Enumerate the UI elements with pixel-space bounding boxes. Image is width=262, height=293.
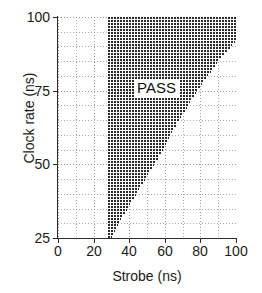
pass-region-row (108, 221, 119, 223)
pass-region-row (108, 167, 152, 169)
pass-region-row (108, 215, 123, 217)
pass-region (58, 17, 236, 238)
pass-region-row (108, 230, 115, 232)
pass-region-row (108, 122, 177, 124)
y-tick-label: 100 (10, 10, 50, 24)
pass-region-row (108, 35, 236, 37)
y-tick (53, 91, 58, 92)
pass-region-row (108, 161, 156, 163)
pass-region-row (108, 209, 127, 211)
pass-region-row (108, 53, 224, 55)
x-axis-label: Strobe (ns) (58, 268, 236, 284)
pass-region-row (108, 107, 187, 109)
pass-region-row (108, 176, 147, 178)
x-tick-label: 0 (38, 244, 78, 258)
pass-region-row (108, 179, 145, 181)
pass-region-row (108, 197, 134, 199)
pass-region-row (108, 149, 163, 151)
pass-region-row (108, 29, 236, 31)
pass-region-row (108, 104, 188, 106)
pass-region-row (108, 98, 192, 100)
pass-region-row (108, 170, 150, 172)
pass-region-row (108, 68, 213, 70)
pass-region-row (108, 50, 227, 52)
pass-region-row (108, 65, 215, 67)
y-tick-label: 50 (10, 157, 50, 171)
pass-region-row (108, 101, 190, 103)
pass-region-row (108, 128, 174, 130)
pass-region-row (108, 17, 236, 19)
pass-region-row (108, 182, 143, 184)
pass-region-row (108, 110, 185, 112)
y-tick (53, 17, 58, 18)
pass-region-row (108, 191, 138, 193)
pass-region-row (108, 125, 176, 127)
pass-region-row (108, 134, 170, 136)
plot-area: PASS (58, 17, 236, 238)
x-tick-label: 20 (74, 244, 114, 258)
shmoo-plot-figure: Clock rate (ns) Strobe (ns) PASS 2550751… (0, 0, 262, 293)
pass-region-row (108, 74, 208, 76)
pass-region-row (108, 218, 121, 220)
pass-region-row (108, 113, 183, 115)
pass-region-row (108, 23, 236, 25)
pass-region-row (108, 26, 236, 28)
y-tick (53, 164, 58, 165)
x-tick-label: 60 (145, 244, 185, 258)
pass-annotation-label: PASS (134, 79, 179, 97)
pass-region-row (108, 47, 230, 49)
pass-region-row (108, 131, 172, 133)
pass-region-row (108, 41, 235, 43)
pass-region-row (108, 164, 154, 166)
pass-region-row (108, 20, 236, 22)
pass-region-row (108, 227, 116, 229)
pass-region-row (108, 185, 141, 187)
pass-region-row (108, 59, 219, 61)
pass-region-row (108, 119, 179, 121)
pass-region-row (108, 140, 167, 142)
pass-region-row (108, 152, 161, 154)
y-axis-label: Clock rate (ns) (21, 23, 37, 213)
pass-region-row (108, 62, 217, 64)
pass-region-row (108, 194, 136, 196)
pass-region-row (108, 44, 232, 46)
y-tick-label: 25 (10, 231, 50, 245)
x-tick-label: 100 (216, 244, 256, 258)
pass-region-row (108, 200, 132, 202)
x-tick-label: 80 (180, 244, 220, 258)
pass-region-row (108, 236, 112, 238)
pass-region-row (108, 188, 139, 190)
pass-region-row (108, 143, 166, 145)
x-axis-spine (57, 238, 237, 239)
pass-region-row (108, 233, 113, 235)
pass-region-row (108, 206, 129, 208)
pass-region-row (108, 32, 236, 34)
x-tick-label: 40 (109, 244, 149, 258)
pass-region-row (108, 38, 236, 40)
pass-region-row (108, 71, 211, 73)
pass-region-row (108, 173, 148, 175)
pass-region-row (108, 56, 222, 58)
pass-region-row (108, 212, 125, 214)
pass-region-row (108, 224, 118, 226)
pass-region-row (108, 137, 169, 139)
pass-region-row (108, 116, 181, 118)
pass-region-row (108, 155, 159, 157)
pass-region-row (108, 158, 158, 160)
pass-region-row (108, 203, 130, 205)
pass-region-row (108, 146, 164, 148)
y-tick-label: 75 (10, 84, 50, 98)
